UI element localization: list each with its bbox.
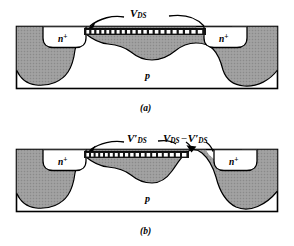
gate-channel-bar-a xyxy=(84,28,206,35)
figure-root: VDS n+ n+ p (a) xyxy=(0,0,294,246)
figure-panel-a: VDS n+ n+ p (a) xyxy=(0,0,294,123)
substrate-label-a: p xyxy=(145,71,150,81)
figure-panel-b: V′DS VDS−V′DS n+ n+ p (b) xyxy=(0,123,294,246)
drain-label-a: n+ xyxy=(219,33,229,44)
drain-label-b: n+ xyxy=(229,156,239,167)
vds-difference-label-b: VDS−V′DS xyxy=(163,133,208,146)
gate-channel-bar-b xyxy=(84,151,189,158)
source-label-a: n+ xyxy=(58,33,68,44)
vds-leader-a xyxy=(90,15,204,26)
vds-label-a: VDS xyxy=(130,8,147,21)
vds-prime-label-b: V′DS xyxy=(127,133,147,146)
substrate-label-b: p xyxy=(145,194,150,204)
panel-caption-a: (a) xyxy=(140,104,151,114)
source-label-b: n+ xyxy=(58,156,68,167)
panel-caption-b: (b) xyxy=(140,227,151,237)
